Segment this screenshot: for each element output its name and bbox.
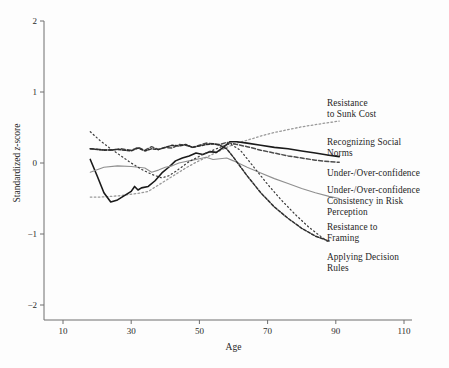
legend-label-4: Resistance to Framing: [327, 222, 378, 244]
x-tick-label-110: 110: [397, 326, 411, 336]
x-tick-label-50: 50: [195, 326, 205, 336]
y-tick-label-1: 1: [33, 87, 38, 97]
series-group: [90, 121, 339, 242]
y-tick-label-2: 2: [33, 16, 38, 26]
line-chart: 210−1−21030507090110 AgeStandardized z-s…: [0, 0, 449, 368]
x-tick-label-30: 30: [127, 326, 137, 336]
x-tick-label-10: 10: [59, 326, 69, 336]
legend-label-1: Recognizing Social Norms: [327, 137, 401, 159]
legend-label-5: Applying Decision Rules: [327, 252, 399, 274]
x-axis-title: Age: [226, 342, 242, 352]
legend-label-3: Under-/Over-confidence Consistency in Ri…: [327, 185, 420, 219]
y-tick-label--2: −2: [27, 300, 37, 310]
series-line-3: [90, 157, 339, 198]
y-tick-label-0: 0: [33, 158, 38, 168]
y-axis-title: Standardized z-score: [12, 124, 22, 203]
y-tick-label--1: −1: [27, 229, 37, 239]
legend-label-0: Resistance to Sunk Cost: [327, 98, 376, 120]
figure-container: 210−1−21030507090110 AgeStandardized z-s…: [0, 0, 449, 368]
x-tick-label-90: 90: [331, 326, 341, 336]
legend-label-2: Under-/Over-confidence: [327, 168, 420, 179]
series-line-5: [90, 132, 329, 243]
x-tick-label-70: 70: [263, 326, 273, 336]
